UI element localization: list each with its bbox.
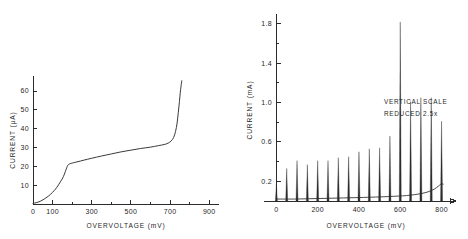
left-y-axis-title: CURRENT (µA) xyxy=(9,111,17,168)
spike-bar xyxy=(368,149,370,201)
left-x-tick-label: 500 xyxy=(125,208,138,215)
left-y-tick-marks xyxy=(33,91,37,185)
right-y-tick-labels: 0.20.61.01.41.8 xyxy=(261,20,272,184)
right-x-tick-label: 0 xyxy=(274,206,278,213)
right-y-tick-label: 0.6 xyxy=(261,138,272,145)
left-y-tick-labels: 102030405060 xyxy=(21,87,29,188)
right-chart-svg: 0.20.61.01.41.8 0200400600800 VERTICAL S… xyxy=(234,0,468,239)
chart-panel-left: 102030405060 0100300500700900 OVERVOLTAG… xyxy=(0,0,234,239)
right-y-tick-label: 1.4 xyxy=(261,60,272,67)
right-y-tick-label: 0.2 xyxy=(261,178,272,185)
left-y-tick-label: 10 xyxy=(21,182,29,189)
chart-panel-right: 0.20.61.01.41.8 0200400600800 VERTICAL S… xyxy=(234,0,468,239)
left-x-tick-label: 700 xyxy=(164,208,177,215)
left-x-tick-labels: 0100300500700900 xyxy=(31,208,216,215)
right-y-axis-title: CURRENT (mA) xyxy=(246,80,254,139)
right-x-tick-label: 800 xyxy=(435,206,448,213)
right-x-axis-title: OVERVOLTAGE (mV) xyxy=(326,222,405,230)
left-x-tick-label: 100 xyxy=(46,208,59,215)
spike-bar xyxy=(327,161,329,201)
spike-bar xyxy=(441,121,443,201)
spike-bar xyxy=(358,152,360,201)
spike-bar xyxy=(296,161,298,201)
right-y-tick-marks xyxy=(276,24,281,181)
left-chart-svg: 102030405060 0100300500700900 OVERVOLTAG… xyxy=(0,0,234,239)
spike-bar xyxy=(348,157,350,201)
left-y-tick-label: 20 xyxy=(21,163,29,170)
right-x-tick-label: 600 xyxy=(394,206,407,213)
spike-bar xyxy=(337,158,339,201)
left-x-tick-label: 900 xyxy=(203,208,216,215)
vertical-scale-annotation-line-1: VERTICAL SCALE xyxy=(384,98,447,105)
spike-bar xyxy=(317,161,319,201)
vertical-scale-annotation-line-2: REDUCED 2.5x xyxy=(384,110,438,117)
left-x-tick-label: 300 xyxy=(85,208,98,215)
spike-bar xyxy=(389,136,391,201)
left-y-tick-label: 40 xyxy=(21,125,29,132)
right-x-tick-label: 400 xyxy=(353,206,366,213)
spike-bar xyxy=(306,165,308,201)
left-iv-curve xyxy=(33,81,182,204)
right-x-tick-label: 200 xyxy=(311,206,324,213)
left-x-tick-marks xyxy=(33,200,209,204)
figure-container: 102030405060 0100300500700900 OVERVOLTAG… xyxy=(0,0,468,239)
spike-bar xyxy=(286,169,288,201)
left-y-tick-label: 60 xyxy=(21,87,29,94)
left-y-tick-label: 50 xyxy=(21,106,29,113)
right-x-tick-labels: 0200400600800 xyxy=(274,206,448,213)
left-y-tick-label: 30 xyxy=(21,144,29,151)
spike-bar xyxy=(379,148,381,201)
left-x-axis-title: OVERVOLTAGE (mV) xyxy=(86,222,165,230)
right-y-tick-label: 1.0 xyxy=(261,99,272,106)
left-x-tick-label: 0 xyxy=(31,208,35,215)
right-y-tick-label: 1.8 xyxy=(261,20,272,27)
vertical-scale-annotation: VERTICAL SCALE REDUCED 2.5x xyxy=(384,98,447,117)
